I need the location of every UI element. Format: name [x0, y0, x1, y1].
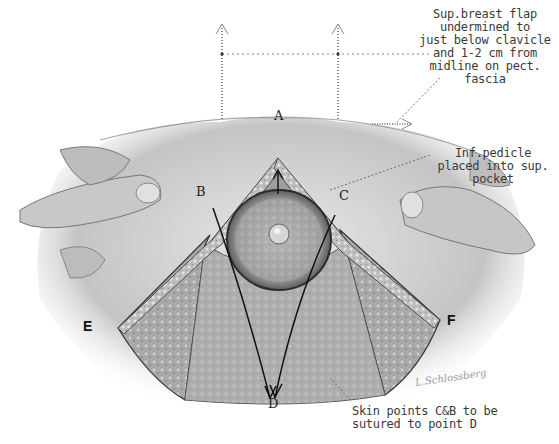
point-c-label: C [339, 188, 349, 203]
point-e-label: E [83, 318, 92, 334]
surgical-illustration: A B C D E F Sup.breast flap undermined t… [0, 0, 559, 444]
annotation-line: fascia [410, 73, 559, 86]
annotation-superior-flap: Sup.breast flap undermined to just below… [410, 8, 559, 86]
point-d-label: D [268, 396, 278, 411]
undermining-guide-lines [216, 24, 440, 129]
annotation-skin-points: Skin points C&B to be sutured to point D [352, 405, 512, 431]
annotation-inferior-pedicle: Inf.pedicle placed into sup. pocket [428, 147, 558, 186]
annotation-line: pocket [428, 173, 558, 186]
annotation-line: sutured to point D [352, 418, 512, 431]
point-a-label: A [274, 108, 283, 123]
nipple-areola-complex [227, 190, 331, 290]
point-f-label: F [447, 312, 456, 328]
point-b-label: B [196, 184, 206, 199]
